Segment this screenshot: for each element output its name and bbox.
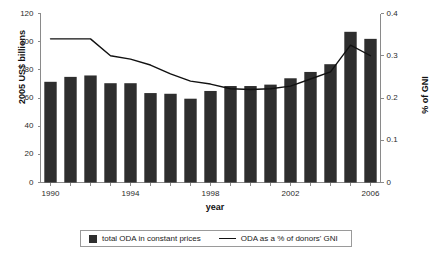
legend-entry-bars: total ODA in constant prices — [89, 234, 201, 243]
bar — [164, 94, 176, 183]
bar — [364, 39, 376, 183]
x-axis-tick-label: 2002 — [271, 189, 311, 198]
chart-legend: total ODA in constant prices ODA as a % … — [80, 230, 352, 247]
legend-line-label: ODA as a % of donors' GNI — [241, 234, 338, 243]
bar — [184, 99, 196, 183]
y-axis-right-tick-label: 0.3 — [387, 51, 417, 60]
bar — [204, 91, 216, 183]
bar — [124, 83, 136, 182]
chart-container: 2005 US$ billions % of GNI year 02040608… — [0, 0, 430, 258]
line-path — [51, 39, 371, 90]
legend-bar-swatch-icon — [89, 235, 97, 243]
x-axis-tick-label: 2006 — [351, 189, 391, 198]
bar — [224, 86, 236, 182]
bar — [244, 86, 256, 182]
bar — [344, 32, 356, 183]
x-axis-title: year — [0, 202, 430, 212]
y-axis-left-tick-label: 20 — [8, 149, 34, 158]
bar — [44, 82, 56, 183]
legend-entry-line: ODA as a % of donors' GNI — [219, 234, 338, 243]
bar — [284, 78, 296, 182]
bar — [324, 64, 336, 182]
legend-bars-label: total ODA in constant prices — [102, 234, 201, 243]
x-axis-tick-label: 1998 — [191, 189, 231, 198]
y-axis-left-tick-label: 120 — [8, 9, 34, 18]
y-axis-right-tick-label: 0 — [387, 178, 417, 187]
bar — [304, 72, 316, 183]
bar — [104, 83, 116, 182]
y-axis-left-tick-label: 80 — [8, 65, 34, 74]
x-axis-tick-label: 1994 — [111, 189, 151, 198]
y-axis-right-tick-label: 0.2 — [387, 93, 417, 102]
bar — [84, 75, 96, 182]
y-axis-right-tick-label: 0.1 — [387, 135, 417, 144]
y-axis-left-tick-label: 100 — [8, 37, 34, 46]
bar-series — [44, 32, 376, 183]
line-series — [51, 39, 371, 90]
y-axis-left-tick-label: 0 — [8, 178, 34, 187]
bar — [64, 77, 76, 183]
y-axis-right-tick-label: 0.4 — [387, 9, 417, 18]
bar — [144, 93, 156, 182]
legend-line-swatch-icon — [219, 238, 236, 239]
y-axis-right-title: % of GNI — [420, 30, 430, 160]
y-axis-left-tick-label: 60 — [8, 93, 34, 102]
chart-plot-area — [0, 0, 430, 258]
x-axis-tick-label: 1990 — [31, 189, 71, 198]
bar — [264, 85, 276, 183]
y-axis-left-tick-label: 40 — [8, 121, 34, 130]
